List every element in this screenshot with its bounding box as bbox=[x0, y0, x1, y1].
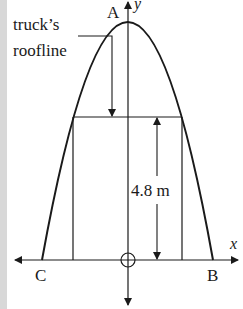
x-axis-label: x bbox=[229, 235, 237, 252]
parabola-diagram: A y x C B truck’s roofline 4.8 m bbox=[0, 0, 243, 309]
apex-label: A bbox=[107, 3, 120, 22]
roofline-leader-arrow bbox=[78, 36, 112, 116]
roofline-label-line2: roofline bbox=[13, 41, 67, 60]
roofline-label-line1: truck’s bbox=[13, 15, 59, 34]
left-root-label: C bbox=[35, 266, 46, 285]
y-axis-label: y bbox=[132, 0, 142, 13]
right-root-label: B bbox=[207, 266, 218, 285]
height-label: 4.8 m bbox=[131, 181, 170, 200]
